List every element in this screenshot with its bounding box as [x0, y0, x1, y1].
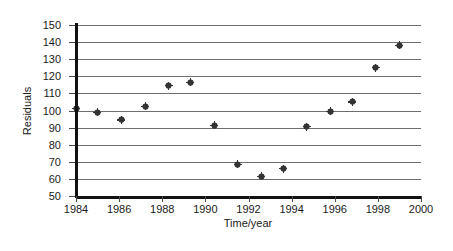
- x-tick-1984: [76, 196, 77, 202]
- y-axis-label: Residuals: [22, 87, 33, 135]
- x-tick-1998: [378, 196, 379, 202]
- data-point: [143, 104, 148, 109]
- x-tick-label-1994: 1994: [279, 204, 303, 215]
- y-tick-label-60: 60: [49, 173, 61, 184]
- data-point: [281, 166, 286, 171]
- data-point: [259, 174, 264, 179]
- gridline-y-130: [76, 59, 421, 60]
- y-tick-80: 80: [69, 145, 75, 146]
- y-tick-label-140: 140: [43, 37, 61, 48]
- y-tick-label-120: 120: [43, 71, 61, 82]
- y-tick-label-50: 50: [49, 191, 61, 202]
- y-tick-label-70: 70: [49, 156, 61, 167]
- plot-area: [76, 25, 421, 196]
- y-tick-label-130: 130: [43, 54, 61, 65]
- x-tick-1996: [335, 196, 336, 202]
- gridline-y-80: [76, 145, 421, 146]
- gridline-y-100: [76, 111, 421, 112]
- y-tick-120: 120: [69, 76, 75, 77]
- scatter-chart-figure: 5060708090100110120130140150 19841986198…: [0, 0, 453, 251]
- data-point: [350, 99, 355, 104]
- y-tick-50: 50: [69, 196, 75, 197]
- data-point: [397, 43, 402, 48]
- x-tick-label-1996: 1996: [323, 204, 347, 215]
- x-tick-label-1998: 1998: [366, 204, 390, 215]
- data-point: [95, 110, 100, 115]
- x-tick-label-1990: 1990: [193, 204, 217, 215]
- x-tick-label-1986: 1986: [107, 204, 131, 215]
- y-tick-label-110: 110: [43, 88, 61, 99]
- x-tick-1990: [205, 196, 206, 202]
- x-tick-1988: [162, 196, 163, 202]
- y-tick-90: 90: [69, 128, 75, 129]
- data-point: [212, 123, 217, 128]
- x-tick-label-2000: 2000: [409, 204, 433, 215]
- y-tick-70: 70: [69, 162, 75, 163]
- gridline-y-150: [76, 25, 421, 26]
- y-tick-label-150: 150: [43, 20, 61, 31]
- y-tick-100: 100: [69, 111, 75, 112]
- x-tick-1986: [119, 196, 120, 202]
- y-tick-60: 60: [69, 179, 75, 180]
- x-tick-1994: [292, 196, 293, 202]
- gridline-y-70: [76, 162, 421, 163]
- y-tick-110: 110: [69, 93, 75, 94]
- x-tick-1992: [249, 196, 250, 202]
- x-tick-label-1988: 1988: [150, 204, 174, 215]
- data-point: [235, 162, 240, 167]
- gridline-y-140: [76, 42, 421, 43]
- y-tick-label-80: 80: [49, 139, 61, 150]
- x-tick-label-1992: 1992: [236, 204, 260, 215]
- y-tick-label-100: 100: [43, 105, 61, 116]
- gridline-y-110: [76, 93, 421, 94]
- x-axis-label: Time/year: [224, 218, 273, 229]
- y-tick-150: 150: [69, 25, 75, 26]
- y-tick-label-90: 90: [49, 122, 61, 133]
- data-point: [166, 83, 171, 88]
- y-tick-140: 140: [69, 42, 75, 43]
- data-point: [328, 109, 333, 114]
- x-tick-2000: [421, 196, 422, 202]
- gridline-y-120: [76, 76, 421, 77]
- gridline-y-60: [76, 179, 421, 180]
- gridline-y-90: [76, 128, 421, 129]
- data-point: [373, 65, 378, 70]
- x-tick-label-1984: 1984: [64, 204, 88, 215]
- data-point: [119, 117, 124, 122]
- y-tick-130: 130: [69, 59, 75, 60]
- data-point: [188, 80, 193, 85]
